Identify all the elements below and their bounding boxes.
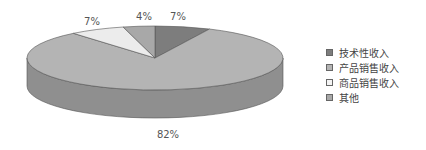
legend-swatch <box>326 94 333 101</box>
legend-label: 商品销售收入 <box>339 75 399 90</box>
legend-swatch <box>326 49 333 56</box>
legend-label: 技术性收入 <box>339 45 389 60</box>
legend-item: 产品销售收入 <box>326 60 399 75</box>
data-label: 7% <box>170 11 186 22</box>
legend-item: 其他 <box>326 90 399 105</box>
legend-swatch <box>326 79 333 86</box>
pie-chart: 7%82%7%4% <box>0 0 300 150</box>
legend-item: 商品销售收入 <box>326 75 399 90</box>
legend-label: 产品销售收入 <box>339 60 399 75</box>
legend-item: 技术性收入 <box>326 45 399 60</box>
legend-swatch <box>326 64 333 71</box>
data-label: 82% <box>157 129 179 140</box>
legend-label: 其他 <box>339 90 359 105</box>
legend: 技术性收入 产品销售收入 商品销售收入 其他 <box>326 45 399 105</box>
data-label: 7% <box>84 16 100 27</box>
data-label: 4% <box>136 11 152 22</box>
